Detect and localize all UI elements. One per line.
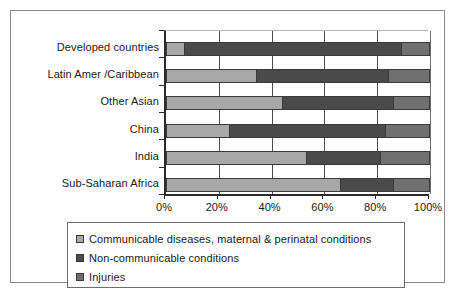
- bar-segment: [166, 178, 340, 192]
- bar-row: [166, 178, 430, 192]
- y-tick: [159, 194, 164, 195]
- x-tick-60: [322, 194, 323, 199]
- y-axis-label: India: [17, 150, 159, 162]
- bar-segment: [229, 124, 385, 138]
- y-tick: [159, 30, 164, 31]
- legend-item[interactable]: Communicable diseases, maternal & perina…: [76, 231, 371, 247]
- bar-segment: [388, 69, 430, 83]
- bar-segment: [166, 42, 184, 56]
- y-axis-label: Other Asian: [17, 95, 159, 107]
- bar-row: [166, 69, 430, 83]
- legend-swatch-icon: [76, 273, 84, 281]
- plot-area: [164, 30, 428, 194]
- x-tick-label-100: 100%: [408, 201, 448, 213]
- x-tick-label-80: 80%: [355, 201, 395, 213]
- legend-item[interactable]: Non-communicable conditions: [76, 250, 239, 266]
- bar-segment: [393, 96, 430, 110]
- bar-segment: [166, 69, 256, 83]
- x-tick-label-0: 0%: [144, 201, 184, 213]
- bar-row: [166, 151, 430, 165]
- bar-segment: [184, 42, 400, 56]
- y-axis-label: Sub-Saharan Africa: [17, 177, 159, 189]
- chart-screenshot: Developed countriesLatin Amer /Caribbean…: [0, 0, 455, 293]
- bar-segment: [166, 124, 229, 138]
- y-axis-label: China: [17, 123, 159, 135]
- y-tick: [159, 167, 164, 168]
- bar-segment: [282, 96, 393, 110]
- x-tick-80: [375, 194, 376, 199]
- bars-container: [166, 31, 428, 194]
- y-tick: [159, 85, 164, 86]
- bar-segment: [380, 151, 430, 165]
- y-axis-labels: Developed countriesLatin Amer /Caribbean…: [11, 11, 159, 194]
- legend-label: Non-communicable conditions: [89, 252, 239, 264]
- y-tick: [159, 112, 164, 113]
- x-tick-label-60: 60%: [302, 201, 342, 213]
- bar-segment: [166, 96, 282, 110]
- legend-label: Communicable diseases, maternal & perina…: [89, 233, 371, 245]
- x-tick-40: [270, 194, 271, 199]
- chart-frame: Developed countriesLatin Amer /Caribbean…: [10, 10, 445, 283]
- bar-row: [166, 96, 430, 110]
- legend-swatch-icon: [76, 235, 84, 243]
- gridline-100: [430, 31, 431, 194]
- bar-segment: [256, 69, 388, 83]
- bar-segment: [393, 178, 430, 192]
- x-tick-label-40: 40%: [250, 201, 290, 213]
- y-tick: [159, 139, 164, 140]
- legend-item[interactable]: Injuries: [76, 269, 125, 285]
- x-tick-0: [164, 194, 165, 199]
- bar-segment: [306, 151, 380, 165]
- y-axis-label: Developed countries: [17, 41, 159, 53]
- bar-segment: [401, 42, 430, 56]
- chart-legend: Communicable diseases, maternal & perina…: [67, 222, 405, 288]
- bar-segment: [340, 178, 393, 192]
- legend-label: Injuries: [89, 271, 125, 283]
- x-tick-20: [217, 194, 218, 199]
- legend-swatch-icon: [76, 254, 84, 262]
- bar-row: [166, 42, 430, 56]
- x-tick-100: [428, 194, 429, 199]
- x-axis-line: [164, 194, 429, 196]
- x-tick-label-20: 20%: [197, 201, 237, 213]
- y-axis-label: Latin Amer /Caribbean: [17, 68, 159, 80]
- bar-row: [166, 124, 430, 138]
- bar-segment: [166, 151, 306, 165]
- y-tick: [159, 57, 164, 58]
- bar-segment: [385, 124, 430, 138]
